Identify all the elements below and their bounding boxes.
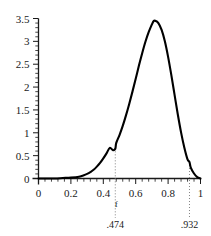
- annotation-symbol-label: f: [115, 199, 118, 209]
- x-axis-tick-label: 0: [36, 187, 42, 199]
- y-axis-tick-label: 2.5: [16, 58, 30, 70]
- y-axis-tick-label: 1: [24, 127, 30, 139]
- y-axis-tick-label: 1.5: [16, 104, 30, 116]
- annotation-value-label: .932: [181, 219, 199, 230]
- x-axis-tick-label: 0.2: [64, 187, 78, 199]
- chart-container: 00.20.40.60.81 00.511.522.533.5 f.474.93…: [0, 0, 211, 236]
- density-curve-chart: 00.20.40.60.81 00.511.522.533.5 f.474.93…: [0, 0, 211, 236]
- y-axis-tick-label: 2: [24, 81, 30, 93]
- x-axis-tick-label: 0.6: [129, 187, 143, 199]
- y-axis-tick-label: 3.5: [16, 13, 30, 25]
- y-axis-tick-label: 0: [24, 173, 30, 185]
- x-axis-tick-label: 1: [198, 187, 204, 199]
- y-axis-tick-label: 0.5: [16, 150, 30, 162]
- x-axis-tick-label: 0.4: [96, 187, 110, 199]
- x-axis-tick-label: 0.8: [161, 187, 175, 199]
- annotation-value-label: .474: [107, 219, 125, 230]
- y-axis-tick-label: 3: [24, 35, 30, 47]
